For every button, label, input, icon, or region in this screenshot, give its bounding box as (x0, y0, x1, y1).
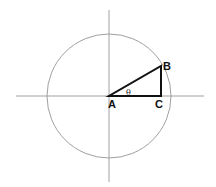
label-a: A (108, 98, 116, 110)
diagram-canvas: A B C θ (0, 0, 216, 187)
label-b: B (163, 60, 171, 72)
right-triangle (109, 66, 161, 96)
angle-theta: θ (126, 88, 131, 97)
label-c: C (155, 98, 163, 110)
